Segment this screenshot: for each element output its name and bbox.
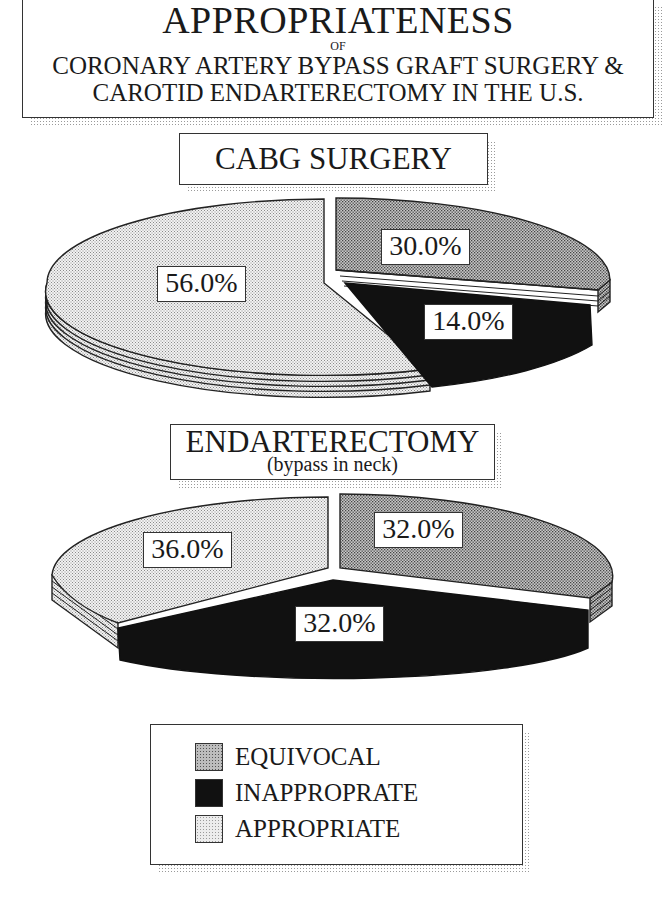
cabg-title: CABG SURGERY: [215, 141, 452, 176]
equivocal-swatch-icon: [195, 743, 223, 771]
cabg-label-appropriate: 56.0%: [157, 266, 246, 302]
endarterectomy-pie: [52, 494, 613, 679]
cabg-label-equivocal: 30.0%: [381, 229, 470, 265]
endarterectomy-label-appropriate: 36.0%: [143, 532, 232, 568]
legend-item-appropriate: APPROPRIATE: [195, 815, 400, 843]
legend-label-equivocal: EQUIVOCAL: [235, 743, 381, 771]
inappropriate-swatch-icon: [195, 779, 223, 807]
cabg-label-inappropriate: 14.0%: [424, 304, 513, 340]
legend-label-appropriate: APPROPRIATE: [235, 815, 400, 843]
legend-label-inappropriate: INAPPROPRATE: [235, 779, 418, 807]
appropriate-swatch-icon: [195, 815, 223, 843]
endarterectomy-title-box: ENDARTERECTOMY (bypass in neck): [170, 424, 495, 480]
endarterectomy-label-inappropriate: 32.0%: [295, 606, 384, 642]
cabg-pie: [46, 198, 610, 397]
legend-item-inappropriate: INAPPROPRATE: [195, 779, 418, 807]
legend-item-equivocal: EQUIVOCAL: [195, 743, 381, 771]
legend: EQUIVOCAL INAPPROPRATE APPROPRIATE: [150, 724, 523, 865]
cabg-title-box: CABG SURGERY: [179, 133, 488, 185]
endarterectomy-label-equivocal: 32.0%: [374, 512, 463, 548]
